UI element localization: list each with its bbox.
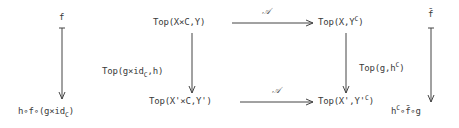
left-arrow-label: Top(g×idC,h) — [102, 66, 163, 76]
term-fbar-g: ∘f̄∘g — [400, 106, 421, 116]
close-paren: ) — [69, 106, 74, 116]
node-top-left: Top(X×C,Y) — [153, 17, 205, 27]
close-paren: ) — [358, 17, 363, 27]
right-arrow-label: Top(g,hC) — [359, 63, 404, 73]
left-mapsto-arrow — [59, 28, 65, 99]
label-base: Top(g×id — [102, 66, 144, 76]
top-arrow-label: 𝒜 — [262, 6, 271, 17]
node-hc-fbar-g: hC∘f̄∘g — [391, 106, 421, 116]
close-paren: ) — [399, 63, 404, 73]
node-top-right: Top(X,YC) — [318, 17, 363, 27]
node-bottom-right: Top(X',Y'C) — [318, 96, 374, 106]
node-fbar: f̄ — [428, 9, 433, 19]
right-mapsto-arrow — [428, 28, 434, 102]
term-g-times-id: (g×id — [39, 106, 65, 116]
node-h-f-composite: h∘f∘(g×idC) — [18, 106, 74, 116]
node-top-right-base: Top(X,Y — [318, 17, 355, 27]
label-base: Top(g,h — [359, 63, 396, 73]
node-f: f — [59, 12, 64, 22]
bottom-arrow-label: 𝒜 — [272, 85, 281, 96]
node-bottom-right-base: Top(X',Y' — [318, 96, 365, 106]
node-bottom-left: Top(X'×C,Y') — [149, 96, 212, 106]
label-tail: ,h) — [147, 66, 163, 76]
close-paren: ) — [369, 96, 374, 106]
